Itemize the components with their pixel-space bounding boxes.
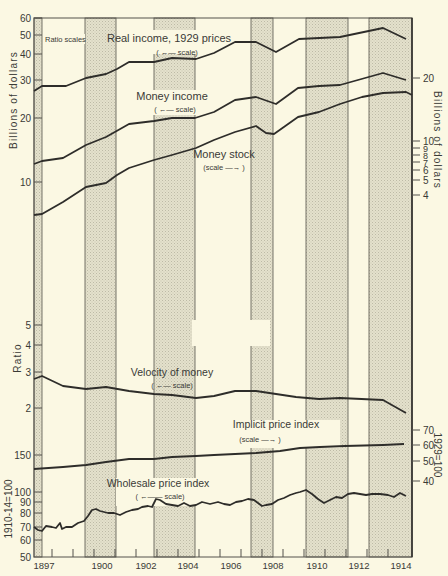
- year-label: 1910: [306, 560, 327, 571]
- year-label: 1902: [135, 560, 156, 571]
- wholesale-price-scale-note: ( ←—— scale): [135, 492, 185, 501]
- tick-label: 20: [423, 73, 435, 84]
- right-axis: [412, 78, 420, 481]
- real-income-label: Real income, 1929 prices: [107, 32, 232, 44]
- tick-label: 30: [20, 75, 32, 86]
- money-stock-label: Money stock: [193, 148, 255, 160]
- x-axis-labels: 1897 1900 1902 1904 1906 1908 1910 1912 …: [33, 560, 411, 571]
- year-label: 1906: [220, 560, 241, 571]
- tick-label: 150: [14, 450, 31, 461]
- shaded-band: [34, 18, 42, 557]
- tick-label: 4: [25, 340, 31, 351]
- tick-label: 5: [25, 320, 31, 331]
- implicit-price-label: Implicit price index: [233, 418, 320, 430]
- shaded-band: [369, 18, 412, 557]
- left-top-axis-title: Billions of dollars: [8, 51, 19, 149]
- year-label: 1897: [33, 560, 54, 571]
- tick-label: 2: [25, 403, 31, 414]
- tick-label: 90: [20, 497, 32, 508]
- wholesale-price-label: Wholesale price index: [107, 477, 210, 489]
- tick-label: 4: [423, 190, 429, 201]
- ratio-scales-label: Ratio scales: [45, 35, 86, 44]
- year-label: 1914: [390, 560, 411, 571]
- left-bottom-axis-title: 1910-14=100: [3, 479, 14, 539]
- tick-label: 60: [20, 535, 32, 546]
- money-income-chart: 60 50 40 30 20 10 5 4 3 2 150 100 90 80 …: [0, 0, 448, 576]
- year-label: 1908: [262, 560, 283, 571]
- tick-label: 50: [20, 552, 32, 563]
- money-income-scale-note: ( ←— scale): [154, 105, 196, 114]
- right-bottom-axis-title: 1929=100: [432, 433, 443, 478]
- year-label: 1912: [348, 560, 369, 571]
- ratio-axis-title: Ratio: [12, 343, 23, 372]
- money-stock-scale-note: (scale —→ ): [203, 163, 245, 172]
- tick-label: 50: [20, 30, 32, 41]
- tick-label: 70: [20, 522, 32, 533]
- shaded-band: [306, 18, 348, 557]
- real-income-scale-note: ( ←— scale): [156, 48, 198, 57]
- velocity-label: Velocity of money: [131, 366, 214, 378]
- tick-label: 60: [20, 13, 32, 24]
- year-label: 1900: [91, 560, 112, 571]
- right-top-axis-title: Billions of dollars: [432, 91, 443, 189]
- year-label: 1904: [177, 560, 198, 571]
- implicit-price-scale-note: (scale —→ ): [239, 435, 281, 444]
- tick-label: 80: [20, 508, 32, 519]
- tick-label: 20: [20, 113, 32, 124]
- tick-label: 40: [423, 476, 435, 487]
- velocity-scale-note: ( ←— scale): [151, 381, 193, 390]
- money-income-label: Money income: [136, 90, 208, 102]
- tick-label: 40: [20, 49, 32, 60]
- tick-label: 3: [25, 367, 31, 378]
- tick-label: 5: [423, 175, 429, 186]
- tick-label: 10: [20, 177, 32, 188]
